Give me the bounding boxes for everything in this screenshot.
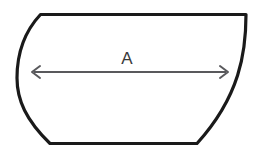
shape-outline-path	[17, 15, 246, 144]
dimension-label-a: A	[121, 49, 133, 68]
figure-canvas: A	[0, 0, 263, 154]
diagram-svg: A	[0, 0, 263, 154]
